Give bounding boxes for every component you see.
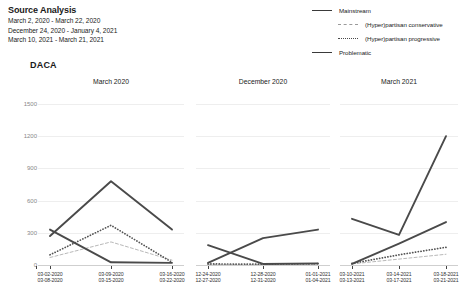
y-axis-tick-label: 900 <box>27 165 37 171</box>
legend-item-hyper-partisan-conservative[interactable]: (Hyper)partisan conservative <box>312 17 462 31</box>
x-axis-tick-mark <box>399 266 400 269</box>
legend-label: (Hyper)partisan progressive <box>365 35 440 42</box>
legend-swatch-solid-icon <box>312 52 332 53</box>
chart-panel-2: December 202012-24-202012-27-202012-28-2… <box>196 78 330 304</box>
x-axis-tick-mark <box>208 266 209 269</box>
page-title: Source Analysis <box>8 4 117 16</box>
x-axis-tick-mark <box>352 266 353 269</box>
legend-label: (Hyper)partisan conservative <box>365 21 443 28</box>
header-date-range-2: December 24, 2020 - January 4, 2021 <box>8 26 117 36</box>
legend-label: Problematic <box>339 49 371 56</box>
x-axis-tick-mark <box>172 266 173 269</box>
x-axis-tick-label: 03-14-202103-17-2021 <box>373 271 425 283</box>
origin-tick-mark <box>36 266 37 269</box>
x-axis-tick-mark <box>446 266 447 269</box>
y-axis-tick-label: 1200 <box>24 133 37 139</box>
x-axis-tick-mark <box>111 266 112 269</box>
x-axis-tick-label: 03-09-202003-15-2020 <box>85 271 137 283</box>
y-axis-tick-label: 1500 <box>24 101 37 107</box>
legend-swatch-dash-icon <box>338 24 358 25</box>
chart-title: DACA <box>30 60 57 70</box>
legend-label: Mainstream <box>339 7 371 14</box>
chart-legend: Mainstream(Hyper)partisan conservative(H… <box>312 3 462 59</box>
x-axis-tick-label: 03-02-202003-08-2020 <box>24 271 76 283</box>
header: Source Analysis March 2, 2020 - March 22… <box>8 4 117 45</box>
y-axis-tick-label: 600 <box>27 198 37 204</box>
chart-panel-1: March 202003-02-202003-08-202003-09-2020… <box>38 78 184 304</box>
x-axis-tick-label-line2: 12-27-2020 <box>182 277 234 283</box>
x-axis-tick-mark <box>50 266 51 269</box>
x-axis-tick-label-line2: 03-17-2021 <box>373 277 425 283</box>
x-axis-tick-label-line2: 03-13-2021 <box>326 277 378 283</box>
series-line <box>352 222 446 264</box>
header-date-range-1: March 2, 2020 - March 22, 2020 <box>8 16 117 26</box>
x-axis-tick-label: 12-28-202012-31-2020 <box>237 271 289 283</box>
series-line <box>208 230 318 263</box>
series-line <box>352 254 446 264</box>
legend-item-mainstream[interactable]: Mainstream <box>312 3 462 17</box>
header-date-range-3: March 10, 2021 - March 21, 2021 <box>8 35 117 45</box>
plot-area: 030060090012001500 March 202003-02-20200… <box>0 78 462 304</box>
x-axis-tick-label-line2: 03-21-2021 <box>420 277 462 283</box>
x-axis-tick-label-line2: 03-15-2020 <box>85 277 137 283</box>
series-line <box>50 181 172 236</box>
x-axis-tick-label: 03-10-202103-13-2021 <box>326 271 378 283</box>
x-axis-tick-mark <box>263 266 264 269</box>
x-axis-tick-label: 03-18-202103-21-2021 <box>420 271 462 283</box>
x-axis-tick-mark <box>318 266 319 269</box>
series-line <box>352 136 446 235</box>
x-axis-tick-label-line2: 12-31-2020 <box>237 277 289 283</box>
chart-panel-3: March 202103-10-202103-13-202103-14-2021… <box>340 78 458 304</box>
y-axis-tick-label: 300 <box>27 230 37 236</box>
legend-swatch-dot-icon <box>338 38 358 39</box>
legend-item-problematic[interactable]: Problematic <box>312 45 462 59</box>
series-line <box>50 225 172 262</box>
legend-swatch-solid-icon <box>312 10 332 11</box>
x-axis-tick-label-line2: 03-08-2020 <box>24 277 76 283</box>
legend-item-hyper-partisan-progressive[interactable]: (Hyper)partisan progressive <box>312 31 462 45</box>
x-axis-tick-label: 12-24-202012-27-2020 <box>182 271 234 283</box>
